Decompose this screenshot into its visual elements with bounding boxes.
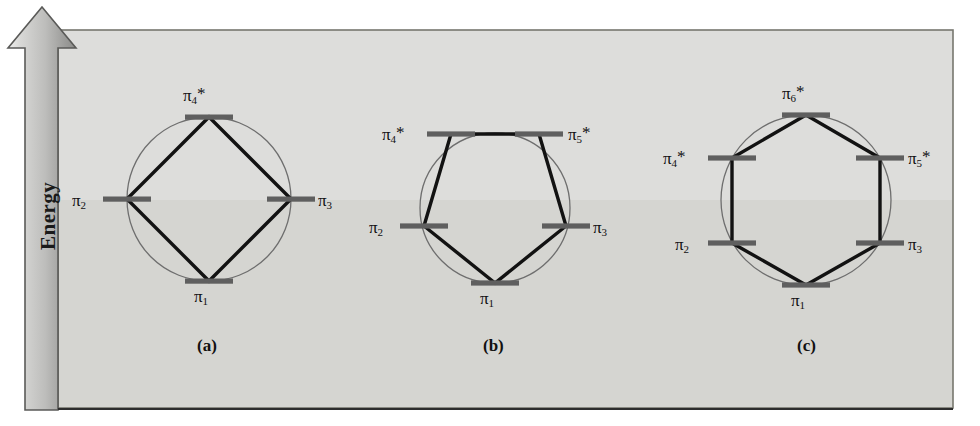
pi-base: π (72, 191, 81, 210)
pi-base: π (480, 289, 489, 308)
pi-base: π (593, 218, 602, 237)
level-bar-b-pi1 (471, 280, 519, 285)
pi-subscript: 1 (800, 299, 806, 311)
level-bar-c-pi4s (708, 155, 756, 160)
pi-subscript: 2 (684, 243, 690, 255)
pi-base: π (908, 149, 917, 168)
orbital-label-a-pi1: π1 (194, 286, 208, 307)
pi-base: π (782, 84, 791, 103)
level-bar-a-pi2 (103, 197, 151, 202)
level-bar-c-pi3 (856, 240, 904, 245)
frost-circles-svg (0, 0, 980, 426)
level-bar-b-pi5s (515, 131, 563, 136)
pi-subscript: 2 (378, 226, 384, 238)
orbital-label-c-pi5s: π5* (908, 148, 931, 169)
pi-subscript: 2 (81, 199, 87, 211)
level-bar-b-pi3 (542, 223, 590, 228)
level-bar-a-pi3 (267, 197, 315, 202)
level-bar-b-pi2 (400, 223, 448, 228)
pi-star: * (197, 84, 206, 103)
pi-subscript: 3 (602, 226, 608, 238)
orbital-label-a-pi3: π3 (318, 190, 332, 211)
orbital-label-c-pi6s: π6* (782, 83, 805, 104)
pi-star: * (582, 123, 591, 142)
pi-base: π (183, 86, 192, 105)
orbital-label-a-pi2: π2 (72, 190, 86, 211)
panel-caption-c: (c) (797, 337, 816, 354)
pi-base: π (908, 235, 917, 254)
pi-star: * (922, 147, 931, 166)
pi-base: π (382, 125, 391, 144)
orbital-label-b-pi5s: π5* (568, 124, 591, 145)
level-bar-c-pi6s (782, 112, 830, 117)
orbital-label-c-pi3: π3 (908, 234, 922, 255)
orbital-label-c-pi1: π1 (791, 290, 805, 311)
level-bar-c-pi2 (708, 240, 756, 245)
orbital-label-b-pi3: π3 (593, 217, 607, 238)
pi-subscript: 1 (203, 295, 209, 307)
figure-canvas: Energy π4* π2 π3 π1 π4* π5* π2 π3 π1 π6*… (0, 0, 980, 426)
pi-subscript: 1 (489, 297, 495, 309)
pi-base: π (369, 218, 378, 237)
pi-base: π (663, 149, 672, 168)
pi-base: π (568, 125, 577, 144)
orbital-label-b-pi2: π2 (369, 217, 383, 238)
level-bar-c-pi5s (856, 155, 904, 160)
pi-subscript: 3 (327, 199, 333, 211)
pi-base: π (791, 291, 800, 310)
orbital-label-b-pi1: π1 (480, 288, 494, 309)
orbital-label-c-pi2: π2 (675, 234, 689, 255)
level-bar-a-pi1 (185, 279, 233, 284)
level-bar-b-pi4s (427, 131, 475, 136)
panel-caption-b: (b) (483, 337, 504, 354)
orbital-label-a-pi4s: π4* (183, 85, 206, 106)
level-bar-a-pi4s (185, 115, 233, 120)
pi-star: * (677, 147, 686, 166)
pi-star: * (796, 82, 805, 101)
pi-base: π (318, 191, 327, 210)
panel-caption-a: (a) (197, 337, 217, 354)
pi-subscript: 3 (917, 243, 923, 255)
pi-base: π (194, 287, 203, 306)
level-bar-c-pi1 (782, 282, 830, 287)
orbital-label-b-pi4s: π4* (382, 124, 405, 145)
energy-axis-label: Energy (36, 182, 61, 250)
pi-star: * (396, 123, 405, 142)
pi-base: π (675, 235, 684, 254)
orbital-label-c-pi4s: π4* (663, 148, 686, 169)
